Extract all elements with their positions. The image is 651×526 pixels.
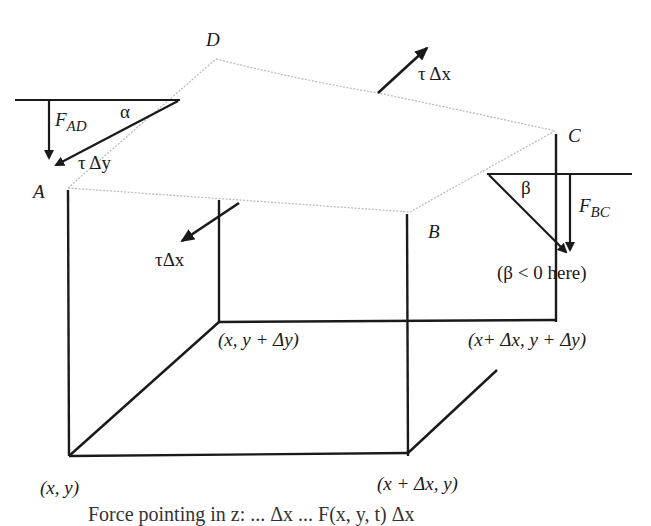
F_BC-label: FBC: [579, 196, 610, 215]
corner-label-x-plus: (x + Δx, y): [377, 474, 458, 493]
alpha-label: α: [120, 102, 130, 121]
figure-caption: Force pointing in z: ... Δx ... F(x, y, …: [88, 503, 415, 526]
corner-label-xy-plus: (x+ Δx, y + Δy): [468, 330, 586, 349]
tau-dx-front-arrow: [182, 203, 239, 241]
force-triangle-BC: [487, 174, 632, 252]
post-B: [407, 214, 408, 456]
tau-dx-front-label: τΔx: [155, 250, 184, 269]
beta-label: β: [521, 178, 531, 197]
F_AD-subscript: AD: [67, 118, 87, 134]
F_AD-main: F: [55, 109, 67, 130]
vertex-label-C: C: [568, 126, 581, 145]
base-left-edge: [69, 322, 219, 456]
corner-label-y-plus: (x, y + Δy): [218, 330, 299, 349]
membrane-surface: [68, 59, 555, 212]
F_BC-main: F: [579, 195, 591, 216]
vertical-posts: [68, 134, 556, 456]
tau-dx-back-label: τ Δx: [418, 64, 451, 83]
vertex-label-B: B: [428, 222, 440, 241]
base-back-edge: [219, 320, 556, 322]
post-A: [68, 190, 69, 456]
vertex-label-A: A: [33, 182, 45, 201]
tau-dy-label: τ Δy: [78, 153, 111, 172]
corner-label-origin: (x, y): [40, 478, 79, 497]
F_AD-label: FAD: [55, 110, 87, 129]
beta-note-label: (β < 0 here): [497, 263, 586, 282]
F_BC-subscript: BC: [591, 204, 610, 220]
vertex-label-D: D: [206, 30, 220, 49]
base-right-edge: [408, 370, 497, 453]
base-front-edge: [69, 453, 408, 456]
